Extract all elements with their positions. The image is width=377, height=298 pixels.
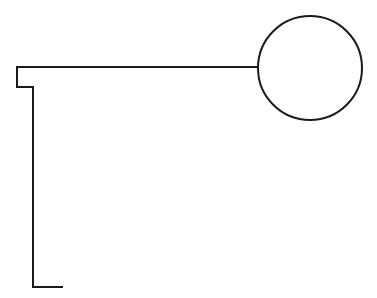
figure-svg: Key-shaped outline drawing <box>0 0 377 298</box>
drawing-canvas: Key-shaped outline drawing <box>0 0 377 298</box>
canvas-background <box>0 0 377 298</box>
